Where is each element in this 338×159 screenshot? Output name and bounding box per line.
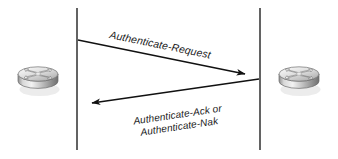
message-label-authenticate-request: Authenticate-Request	[108, 28, 213, 61]
router-right-icon	[279, 67, 321, 96]
message-sequence-diagram: Authenticate-Request Authenticate-Ack or…	[0, 0, 338, 159]
message-arrow-authenticate-ack-nak	[92, 79, 259, 103]
diagram-canvas: Authenticate-Request Authenticate-Ack or…	[0, 0, 338, 159]
router-left-icon	[18, 67, 60, 96]
message-label-authenticate-ack-nak-group: Authenticate-Ack or Authenticate-Nak	[132, 102, 225, 138]
